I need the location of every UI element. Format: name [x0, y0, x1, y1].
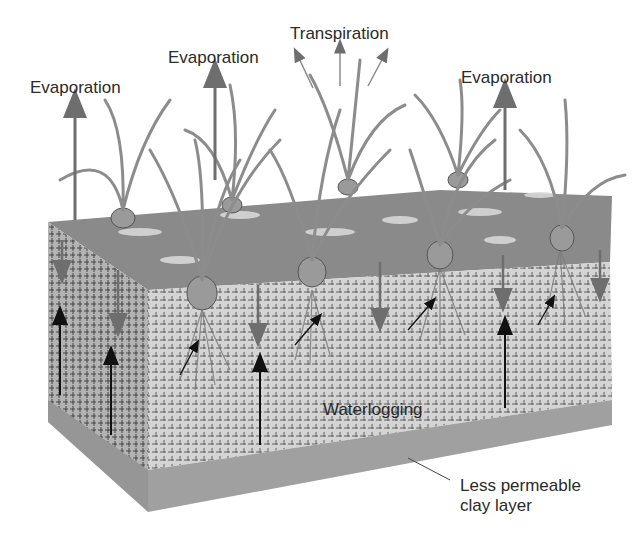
clay-layer-leader: [408, 458, 450, 480]
transpiration-arrow: [368, 54, 385, 86]
evaporation-label-right: Evaporation: [461, 68, 552, 88]
transpiration-label: Transpiration: [290, 24, 389, 44]
clay-layer-label: Less permeable clay layer: [460, 476, 581, 516]
evaporation-label-left: Evaporation: [30, 78, 121, 98]
transpiration-arrow: [297, 54, 313, 88]
evaporation-label-middle: Evaporation: [168, 48, 259, 68]
waterlogging-label: Waterlogging: [323, 400, 423, 420]
